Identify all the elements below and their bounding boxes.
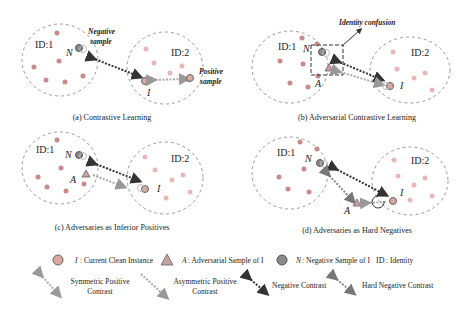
legend-hard-negative: Hard Negative Contrast [362, 281, 434, 290]
hard-negative-legend-icon [334, 277, 352, 292]
asymmetric-positive-arrow [93, 175, 122, 186]
clean-instance-legend-icon [53, 255, 63, 265]
symmetric-positive-arrow [152, 79, 185, 80]
hard-negative-arrow [327, 173, 352, 200]
caption-b: (b) Adversarial Contrastive Learning [298, 113, 416, 122]
svg-text:Contrast: Contrast [192, 287, 218, 296]
svg-text:sample: sample [89, 37, 112, 46]
legend-identity: : Identity [386, 256, 414, 265]
n-label: N [304, 153, 313, 164]
id1-label: ID:1 [278, 41, 296, 52]
adversarial-sample-triangle [82, 170, 90, 177]
clean-instance-dot [142, 78, 149, 85]
id2-label: ID:2 [411, 47, 429, 58]
a-label: A [69, 174, 77, 185]
positive-sample-label: Positive [199, 67, 224, 76]
panel-c: ID:1 ID:2 N A I (c) Adversaries as Infer… [22, 132, 203, 232]
svg-text:sample: sample [199, 77, 222, 86]
legend-row-2: Symmetric Positive Contrast Asymmetric P… [40, 274, 434, 296]
id1-label: ID:1 [36, 144, 54, 155]
panel-d: ID:1 ID:2 N A I (d) Adversaries as Hard … [252, 137, 448, 235]
i-label: I [399, 187, 404, 198]
adversarial-sample-triangle [353, 199, 361, 206]
legend-negative-contrast: Negative Contrast [272, 281, 327, 290]
id2-label: ID:2 [411, 155, 429, 166]
i-label: I [156, 183, 161, 194]
svg-text:N: N [295, 256, 302, 265]
id2-cluster [127, 32, 203, 104]
legend-negative-sample: : Negative Sample of I [302, 256, 370, 265]
legend-clean-instance: : Current Clean Instance [80, 256, 154, 265]
n-label: N [302, 43, 311, 54]
negative-sample-legend-icon [277, 255, 287, 265]
adversarial-legend-icon [161, 254, 173, 265]
annotation-arrow [342, 30, 360, 46]
identity-confusion-label: Identity confusion [338, 18, 395, 27]
negative-sample-label: Negative [87, 27, 116, 36]
id2-label: ID:2 [171, 153, 189, 164]
symmetric-positive-legend-icon [40, 274, 58, 294]
id1-label: ID:1 [35, 39, 53, 50]
n-label: N [64, 149, 73, 160]
legend-asymmetric-positive: Asymmetric Positive [173, 277, 237, 286]
negative-contrast-arrow [92, 58, 138, 76]
figure-canvas: ID:1 ID:2 N I Negative sample Positive s… [0, 0, 466, 313]
svg-text:ID: ID [376, 256, 385, 265]
a-label: A [343, 205, 351, 216]
caption-d: (d) Adversaries as Hard Negatives [302, 226, 412, 235]
legend-adversarial-sample: : Adversarial Sample of I [188, 256, 264, 265]
svg-text:I: I [74, 256, 78, 265]
i-label: I [399, 80, 404, 91]
clean-instance-dot [390, 198, 397, 205]
caption-c: (c) Adversaries as Inferior Positives [55, 223, 170, 232]
n-label: N [65, 47, 74, 58]
caption-a: (a) Contrastive Learning [73, 113, 152, 122]
asymmetric-positive-arrow [366, 202, 386, 203]
asymmetric-positive-legend-icon [141, 274, 165, 296]
id2-cluster [370, 37, 450, 103]
legend-row-1: I : Current Clean Instance A : Adversari… [53, 254, 414, 265]
adversarial-sample-triangle [325, 64, 333, 71]
id2-label: ID:2 [171, 47, 189, 58]
i-label: I [146, 87, 151, 98]
panel-b: Identity confusion ID:1 ID:2 N A I (b) A… [252, 18, 450, 122]
id1-label: ID:1 [277, 147, 295, 158]
a-label: A [314, 78, 322, 89]
svg-text:Contrast: Contrast [87, 287, 113, 296]
svg-text:A: A [181, 256, 187, 265]
asymmetric-positive-arrow [337, 71, 380, 84]
panel-a: ID:1 ID:2 N I Negative sample Positive s… [22, 24, 224, 122]
legend-symmetric-positive: Symmetric Positive [71, 277, 131, 286]
id2-cluster [127, 142, 203, 214]
positive-sample-dot [187, 75, 194, 82]
negative-contrast-legend-icon [248, 277, 265, 292]
